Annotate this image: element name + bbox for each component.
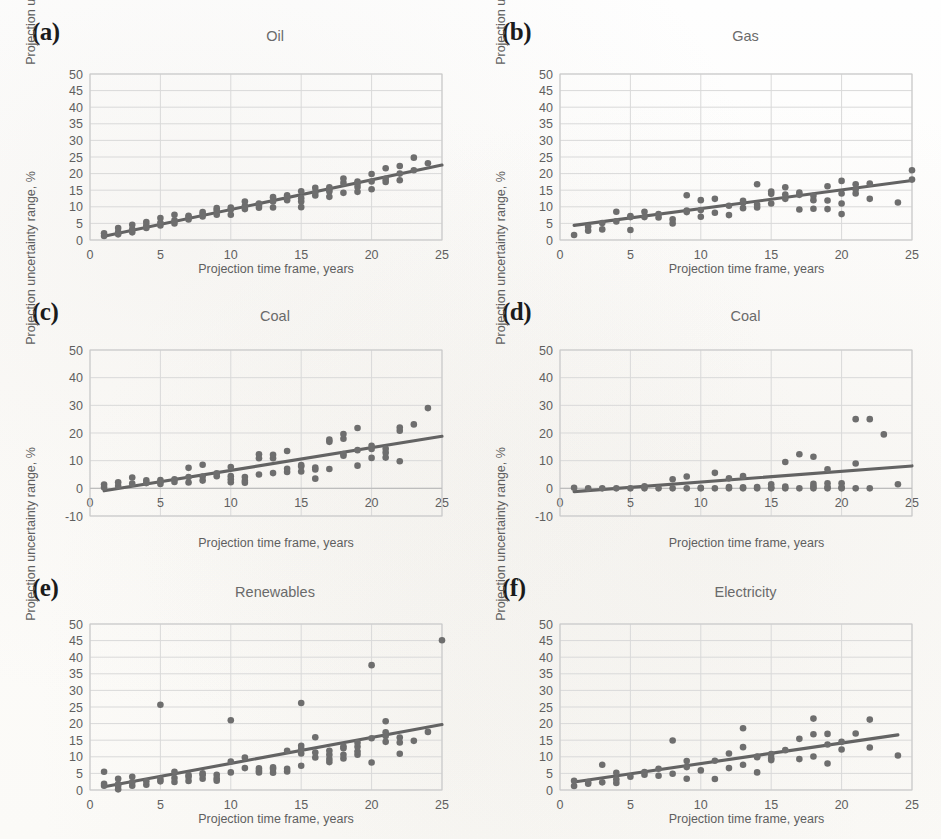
data-point (585, 485, 592, 492)
y-tick-label: 10 (539, 200, 553, 214)
data-point (382, 729, 389, 736)
x-tick-label: 15 (294, 496, 308, 510)
data-point (895, 752, 902, 759)
data-point (396, 751, 403, 758)
data-point (796, 189, 803, 196)
data-point (655, 765, 662, 772)
data-point (838, 746, 845, 753)
data-point (396, 177, 403, 184)
scatter-plot-c: -10010203040500510152025 (44, 340, 452, 546)
data-point (382, 718, 389, 725)
data-point (712, 776, 719, 783)
panel-title-a: Oil (90, 28, 460, 44)
data-point (270, 470, 277, 477)
data-point (824, 741, 831, 748)
data-point (354, 740, 361, 747)
data-point (228, 204, 235, 211)
data-point (683, 207, 690, 214)
data-point (171, 211, 178, 218)
panel-f: (f) Electricity Projection uncertainty r… (470, 556, 941, 839)
data-point (368, 662, 375, 669)
trend-line (104, 436, 442, 491)
y-tick-label: -10 (535, 510, 553, 524)
data-point (740, 484, 747, 491)
data-point (866, 196, 873, 203)
y-tick-label: 20 (69, 427, 83, 441)
data-point (101, 768, 108, 775)
data-point (895, 199, 902, 206)
data-point (228, 769, 235, 776)
data-point (382, 739, 389, 746)
data-point (824, 466, 831, 473)
data-point (796, 756, 803, 763)
data-point (425, 405, 432, 412)
data-point (683, 192, 690, 199)
data-point (228, 473, 235, 480)
data-point (571, 777, 578, 784)
scatter-plot-d: -10010203040500510152025 (514, 340, 922, 546)
data-point (185, 772, 192, 779)
data-point (782, 184, 789, 191)
figure-grid: (a) Oil Projection uncertainty range, % … (0, 0, 941, 839)
data-point (368, 455, 375, 462)
data-point (838, 178, 845, 185)
data-point (340, 190, 347, 197)
y-axis-label-c: Projection uncertainty range, % (22, 168, 40, 348)
data-point (669, 770, 676, 777)
data-point (425, 160, 432, 167)
y-tick-label: 40 (69, 371, 83, 385)
data-point (726, 484, 733, 491)
y-axis-label-d: Projection uncertainty range, % (492, 168, 510, 348)
panel-title-d: Coal (560, 308, 931, 324)
data-point (171, 217, 178, 224)
y-tick-label: 20 (539, 717, 553, 731)
x-tick-label: 20 (835, 496, 849, 510)
data-point (726, 750, 733, 757)
data-point (115, 479, 122, 486)
y-axis-label-f: Projection uncertainty range, % (492, 444, 510, 624)
x-tick-label: 5 (627, 798, 634, 812)
data-point (669, 216, 676, 223)
y-tick-label: 30 (69, 399, 83, 413)
data-point (129, 474, 136, 481)
data-point (396, 458, 403, 465)
y-tick-label: 40 (69, 101, 83, 115)
data-point (368, 442, 375, 449)
data-point (881, 431, 888, 438)
data-point (810, 193, 817, 200)
y-axis-label-e: Projection uncertainty range, % (22, 444, 40, 624)
y-tick-label: 15 (69, 734, 83, 748)
data-point (585, 779, 592, 786)
data-point (810, 205, 817, 212)
data-point (298, 204, 305, 211)
data-point (396, 170, 403, 177)
data-point (396, 163, 403, 170)
data-point (852, 485, 859, 492)
data-point (866, 485, 873, 492)
x-tick-label: 5 (627, 248, 634, 262)
data-point (641, 769, 648, 776)
y-tick-label: 10 (69, 750, 83, 764)
data-point (754, 769, 761, 776)
x-axis-label-d: Projection time frame, years (560, 536, 933, 550)
data-point (368, 759, 375, 766)
data-point (810, 753, 817, 760)
y-tick-label: 25 (69, 701, 83, 715)
x-axis-label-e: Projection time frame, years (90, 812, 462, 826)
data-point (129, 221, 136, 228)
panel-title-e: Renewables (90, 584, 460, 600)
y-tick-label: 30 (539, 684, 553, 698)
y-tick-label: 45 (69, 634, 83, 648)
y-tick-label: 35 (539, 117, 553, 131)
data-point (129, 480, 136, 487)
data-point (824, 206, 831, 213)
data-point (810, 731, 817, 738)
data-point (613, 218, 620, 225)
data-point (810, 481, 817, 488)
data-point (683, 764, 690, 771)
y-tick-label: 25 (539, 701, 553, 715)
x-tick-label: 10 (224, 798, 238, 812)
data-point (354, 425, 361, 432)
data-point (368, 186, 375, 193)
data-point (298, 462, 305, 469)
